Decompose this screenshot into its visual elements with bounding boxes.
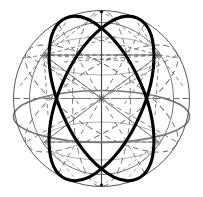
sphere-diagram-canvas: Sphere with great circles Geometric line… bbox=[0, 0, 203, 197]
north-pole-node bbox=[100, 11, 103, 14]
south-pole-node bbox=[100, 184, 103, 187]
sphere-diagram-figure: Sphere with great circles Geometric line… bbox=[0, 0, 203, 197]
